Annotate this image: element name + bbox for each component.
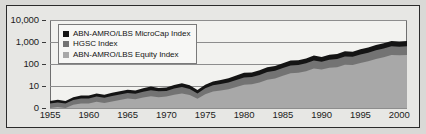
x-axis-tick-label: 1985 [272, 110, 293, 120]
x-axis-tick-label: 1975 [195, 110, 216, 120]
y-axis-tick-mark [42, 86, 46, 87]
y-axis-tick-label: 0 [34, 103, 39, 113]
y-axis-tick-label: 1,000 [16, 37, 39, 47]
y-axis-tick-mark [42, 64, 46, 65]
chart-legend: ABN-AMRO/LBS MicroCap IndexHGSC IndexABN… [58, 24, 197, 64]
legend-swatch-icon [63, 31, 69, 37]
legend-item: HGSC Index [63, 39, 190, 49]
x-axis-tick-label: 1980 [234, 110, 255, 120]
y-axis-tick-label: 10,000 [11, 15, 39, 25]
legend-swatch-icon [63, 41, 69, 47]
x-axis-tick-label: 1955 [40, 110, 61, 120]
x-axis-tick-label: 1960 [78, 110, 99, 120]
y-axis-tick-mark [42, 20, 46, 21]
y-axis-tick-mark [42, 42, 46, 43]
legend-item: ABN-AMRO/LBS Equity Index [63, 50, 190, 60]
figure-container: 0101001,00010,000 1955196019651970197519… [0, 0, 426, 134]
x-axis-tick-label: 1970 [156, 110, 177, 120]
legend-item: ABN-AMRO/LBS MicroCap Index [63, 29, 190, 39]
chart-frame: 0101001,00010,000 1955196019651970197519… [6, 5, 420, 128]
x-axis: 1955196019651970197519801985199019952000 [50, 110, 407, 124]
x-axis-tick-label: 2000 [389, 110, 410, 120]
legend-swatch-icon [63, 52, 69, 58]
y-axis-tick-label: 100 [23, 59, 39, 69]
y-axis-tick-label: 10 [29, 81, 39, 91]
x-axis-tick-label: 1965 [117, 110, 138, 120]
x-axis-tick-label: 1990 [311, 110, 332, 120]
legend-item-label: ABN-AMRO/LBS MicroCap Index [73, 30, 190, 38]
legend-item-label: HGSC Index [73, 40, 117, 48]
x-axis-tick-label: 1995 [350, 110, 371, 120]
legend-item-label: ABN-AMRO/LBS Equity Index [73, 51, 178, 59]
y-axis: 0101001,00010,000 [7, 20, 47, 108]
